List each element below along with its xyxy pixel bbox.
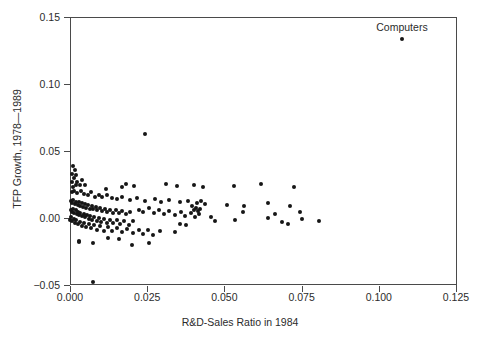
y-tick-mark [64,17,70,18]
data-point [83,183,87,187]
data-point [159,200,163,204]
y-tick-mark [64,151,70,152]
data-point [232,184,236,188]
data-point [178,222,182,226]
data-point [266,216,270,220]
x-tick-label: 0.125 [426,292,480,303]
data-point [157,208,161,212]
data-point [151,233,155,237]
data-point [225,203,229,207]
data-point [89,190,93,194]
x-axis-title: R&D-Sales Ratio in 1984 [0,316,480,328]
data-point [266,201,270,205]
data-point [87,222,91,226]
data-point [186,199,190,203]
data-point [184,223,188,227]
data-point [195,201,199,205]
plot-area [70,17,456,285]
y-tick-label: 0.05 [18,146,60,156]
data-point [292,185,296,189]
data-point [92,223,96,227]
y-tick-label: 0.15 [18,12,60,22]
data-point [120,195,124,199]
y-tick-label: −0.05 [18,280,60,290]
x-tick-label: 0.100 [349,292,409,303]
data-point [130,243,134,247]
data-point [178,200,182,204]
data-point [152,211,156,215]
data-point [102,229,106,233]
data-point [175,184,179,188]
axis-right-spine [456,17,457,286]
data-point [143,132,147,136]
data-point [146,228,150,232]
data-point [124,182,128,186]
data-point [143,199,147,203]
x-tick-label: 0.025 [117,292,177,303]
data-point [73,168,77,172]
data-point [128,210,132,214]
x-tick-label: 0.075 [272,292,332,303]
data-point [147,241,151,245]
data-point [115,197,119,201]
annotation-computers: Computers [376,21,427,33]
scatter-plot-figure: −0.050.000.050.100.15 0.0000.0250.0500.0… [0,0,480,342]
data-point [167,198,171,202]
data-point [173,213,177,217]
x-tick-label: 0.000 [40,292,100,303]
data-point [70,180,74,184]
data-point [75,180,79,184]
data-point [106,236,110,240]
data-point [158,229,162,233]
y-tick-label: 0.00 [18,213,60,223]
data-point [241,210,245,214]
data-point [95,228,99,232]
data-point [162,212,166,216]
data-point [192,183,196,187]
data-point [317,219,321,223]
data-point [233,218,237,222]
data-point [117,237,121,241]
data-point [298,210,302,214]
y-tick-mark [64,84,70,85]
data-point [110,196,114,200]
y-tick-label: 0.10 [18,79,60,89]
data-point [164,182,168,186]
data-point [141,232,145,236]
data-point [153,197,157,201]
axis-top-spine [70,17,457,18]
data-point [179,210,183,214]
data-point [128,198,132,202]
y-axis-title: TFP Growth, 1978—1989 [11,49,23,249]
data-point [132,184,136,188]
data-point [137,208,141,212]
x-tick-label: 0.050 [194,292,254,303]
